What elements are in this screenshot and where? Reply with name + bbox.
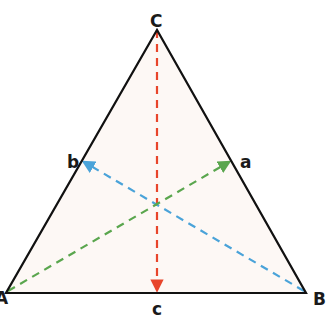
vertex-label-c: C	[150, 11, 162, 31]
triangle-diagram: C A B a b c	[0, 0, 335, 327]
vertex-label-b: B	[313, 289, 326, 309]
midpoint-label-c: c	[152, 299, 162, 319]
vertex-label-a: A	[0, 288, 9, 308]
midpoint-label-a: a	[240, 152, 251, 172]
midpoint-label-b: b	[67, 152, 79, 172]
